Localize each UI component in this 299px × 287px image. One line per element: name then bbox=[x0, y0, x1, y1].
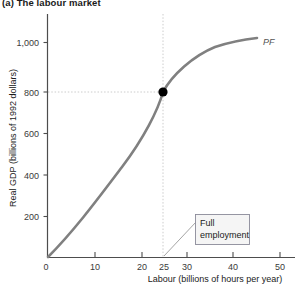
x-tick-label-30: 30 bbox=[182, 262, 192, 272]
y-axis-title: Real GDP (billions of 1992 dollars) bbox=[8, 69, 18, 207]
callout-leader-line bbox=[164, 222, 196, 256]
production-function-chart: 1,000 800 600 400 200 0 10 20 25 30 40 5… bbox=[0, 0, 299, 287]
x-tick-label-50: 50 bbox=[275, 262, 285, 272]
y-axis-tick-labels: 1,000 800 600 400 200 bbox=[16, 38, 39, 222]
x-tick-label-20: 20 bbox=[137, 262, 147, 272]
callout-line-2: employment bbox=[200, 230, 250, 240]
guide-lines bbox=[48, 14, 163, 257]
y-tick-label-200: 200 bbox=[24, 212, 39, 222]
x-tick-label-25: 25 bbox=[159, 262, 169, 272]
x-tick-label-10: 10 bbox=[90, 262, 100, 272]
full-employment-point bbox=[158, 87, 167, 96]
x-tick-label-40: 40 bbox=[228, 262, 238, 272]
x-axis-tick-labels: 0 10 20 25 30 40 50 bbox=[43, 262, 285, 272]
y-tick-label-800: 800 bbox=[24, 88, 39, 98]
x-axis-ticks bbox=[95, 252, 280, 258]
callout-line-1: Full bbox=[200, 218, 215, 228]
axes bbox=[48, 14, 296, 258]
x-tick-label-0: 0 bbox=[43, 262, 48, 272]
x-axis-title: Labour (billions of hours per year) bbox=[148, 274, 283, 284]
curve-label-pf: PF bbox=[263, 37, 275, 47]
y-tick-label-600: 600 bbox=[24, 129, 39, 139]
full-employment-callout: Full employment bbox=[196, 215, 250, 245]
y-tick-label-400: 400 bbox=[24, 171, 39, 181]
y-tick-label-1000: 1,000 bbox=[16, 38, 39, 48]
figure-panel-a: (a) The labour market 1,000 800 600 400 … bbox=[0, 0, 299, 287]
